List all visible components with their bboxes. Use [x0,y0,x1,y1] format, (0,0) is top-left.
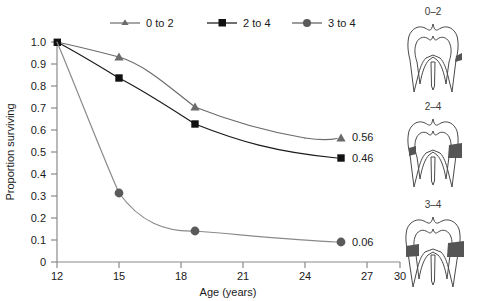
tooth-diagram-0-2: 0–2 [408,6,462,92]
y-axis-tick-labels: 1.0 0.9 0.8 0.7 0.6 0.5 0.4 0.3 0.2 0.1 … [31,36,46,268]
series-3-to-4: 0.06 [57,42,373,248]
lesion-marker [448,143,462,158]
y-tick-label: 0 [40,256,46,268]
endpoint-label-2-to-4: 0.46 [352,152,373,164]
square-icon [219,19,227,27]
series-line-2-to-4 [57,42,337,158]
y-axis-ticks [51,42,57,262]
series-line-3-to-4 [57,42,337,242]
chart-axes: 1.0 0.9 0.8 0.7 0.6 0.5 0.4 0.3 0.2 0.1 … [4,36,406,298]
triangle-icon [121,19,128,25]
y-tick-label: 0.8 [31,80,46,92]
y-tick-label: 1.0 [31,36,46,48]
tooth-diagram-label: 3–4 [425,199,442,210]
lesion-marker [409,146,416,156]
unused [57,42,195,198]
x-tick-label: 18 [175,270,187,282]
x-tick-label: 30 [394,270,406,282]
series-2-to-4: 0.46 [54,39,374,164]
y-tick-label: 0.9 [31,58,46,70]
endpoint-label-0-to-2: 0.56 [352,131,373,143]
y-axis-title: Proportion surviving [4,103,16,200]
data-point-marker [115,189,124,198]
data-point-marker [115,74,122,81]
legend-item-2-to-4: 2 to 4 [207,17,271,29]
x-axis-ticks [57,262,367,268]
y-tick-label: 0.2 [31,212,46,224]
lesion-marker [455,53,462,62]
lesion-marker [447,241,464,257]
y-tick-label: 0.4 [31,168,46,180]
circle-icon [303,19,311,27]
y-tick-label: 0.5 [31,146,46,158]
x-tick-label: 15 [113,270,125,282]
y-tick-label: 0.6 [31,124,46,136]
legend-label-0-to-2: 0 to 2 [146,17,174,29]
data-point-marker [337,154,344,161]
data-point-marker [337,238,346,247]
data-point-marker [191,120,198,127]
tooth-diagram-2-4: 2–4 [408,101,462,187]
data-point-marker [190,103,199,111]
series-0-to-2: 0.56 [57,42,373,198]
chart-legend: 0 to 2 2 to 4 3 to 4 [110,17,356,29]
x-tick-label: 27 [361,270,373,282]
tooth-diagram-label: 2–4 [425,101,442,112]
endpoint-label-3-to-4: 0.06 [352,236,373,248]
x-tick-label: 12 [51,270,63,282]
data-point-marker [336,134,345,142]
x-tick-label: 21 [237,270,249,282]
tooth-icon [408,24,458,92]
figure-root: 0 to 2 2 to 4 3 to 4 [0,0,486,301]
legend-label-3-to-4: 3 to 4 [328,17,356,29]
tooth-diagram-3-4: 3–4 [406,199,464,287]
series-line-0-to-2-tail [305,138,337,140]
survival-curve-figure: 0 to 2 2 to 4 3 to 4 [0,0,486,301]
x-tick-label: 24 [299,270,311,282]
x-axis-tick-labels: 12 15 18 21 24 27 30 [51,270,406,282]
legend-label-2-to-4: 2 to 4 [243,17,271,29]
y-tick-label: 0.3 [31,190,46,202]
x-axis-title: Age (years) [200,286,257,298]
y-tick-label: 0.1 [31,234,46,246]
legend-item-0-to-2: 0 to 2 [110,17,174,29]
y-tick-label: 0.7 [31,102,46,114]
series-line-0-to-2 [57,42,305,138]
data-point-marker [191,227,200,236]
tooth-diagram-label: 0–2 [425,6,442,17]
legend-item-3-to-4: 3 to 4 [292,17,356,29]
lesion-marker [406,244,419,257]
